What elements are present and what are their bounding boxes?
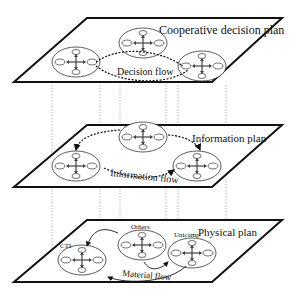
- decision-plane-label: Cooperative decision plan: [159, 23, 284, 37]
- decision-node-right: [178, 51, 226, 81]
- information-node-left: [52, 151, 100, 181]
- node-label-cti: CTI: [60, 242, 72, 250]
- decision-plane: Cooperative decision plan Decision flow: [14, 18, 284, 82]
- decision-node-middle: [119, 28, 167, 58]
- three-plane-diagram: Cooperative decision plan Decision flow …: [0, 0, 298, 297]
- physical-plane: Physical plan CTI Others Unicamp Materia…: [14, 220, 282, 282]
- physical-node-unicamp: [168, 238, 216, 268]
- decision-node-left: [52, 47, 100, 77]
- node-label-others: Others: [131, 223, 150, 231]
- information-plane: Information plan Information flow: [14, 122, 282, 187]
- information-plane-label: Information plan: [192, 132, 267, 144]
- physical-node-others: [118, 230, 166, 260]
- physical-plane-label: Physical plan: [198, 226, 257, 238]
- node-label-unicamp: Unicamp: [174, 231, 200, 239]
- information-node-middle: [119, 122, 167, 152]
- decision-flow-label: Decision flow: [117, 66, 174, 77]
- information-node-right: [173, 151, 221, 181]
